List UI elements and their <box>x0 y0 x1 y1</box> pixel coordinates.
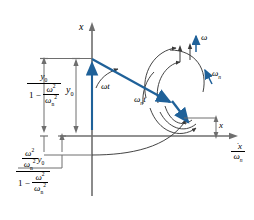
phasor-trajectory-arcs <box>92 48 204 155</box>
lower-num-fden-sub: n <box>30 165 33 171</box>
vertical-axis-label: x <box>79 22 83 32</box>
lower-num-fnum-sup: 2 <box>31 147 34 153</box>
lower-den-one: 1 <box>18 178 23 188</box>
omega-n-t-label: ωnt <box>134 95 146 106</box>
lower-den-minus: − <box>25 178 30 188</box>
upper-den-minus: − <box>36 90 41 100</box>
omega-n-sub: n <box>218 74 221 80</box>
lower-num-fden-sup: 2 <box>33 158 36 164</box>
horizontal-axis-label: ẋ ωn <box>226 142 250 163</box>
horizontal-axis <box>60 133 238 139</box>
lower-den-fden-sub: n <box>40 189 43 195</box>
upper-num-sub: 0 <box>45 77 48 83</box>
upper-den-fnum-sup: 2 <box>53 83 56 89</box>
omega-label: ω <box>201 33 207 42</box>
omega-n-label: ωn <box>212 69 221 80</box>
upper-den-fden-sup: 2 <box>54 94 57 100</box>
upper-den-one: 1 <box>29 90 34 100</box>
lower-num-trail-sub: 0 <box>42 160 45 166</box>
x-dimension-label: x <box>219 121 223 130</box>
transient-amplitude-label: ω2 ωn2 y0 1 − ω2 ωn2 <box>2 148 64 196</box>
omega-t-label: ωt <box>101 82 110 91</box>
omega-n-rate-arrow <box>205 70 212 84</box>
figure-canvas: x y0 y0 1 − ω2 ωn2 ω2 ωn2 <box>0 0 254 220</box>
upper-den-fden-sub: n <box>51 101 54 107</box>
haxis-num: x <box>238 141 242 151</box>
lower-den-fden-sup: 2 <box>43 182 46 188</box>
lower-den-fnum-sup: 2 <box>42 171 45 177</box>
haxis-den-sub: n <box>240 157 243 163</box>
omega-n-t-suffix: t <box>143 94 146 104</box>
omega-t-suffix: t <box>107 81 110 91</box>
steady-state-amplitude-label: y0 1 − ω2 ωn2 <box>5 72 83 108</box>
